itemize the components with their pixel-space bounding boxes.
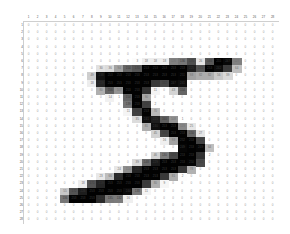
pixel-cell: 0 [241,65,250,72]
pixel-cell: 0 [196,123,205,130]
pixel-cell: 0 [205,108,214,115]
pixel-cell: 0 [24,94,33,101]
pixel-cell: 0 [123,22,132,29]
pixel-cell: 0 [241,29,250,36]
pixel-cell: 0 [24,180,33,187]
pixel-cell: 0 [123,159,132,166]
pixel-cell: 0 [105,216,114,223]
pixel-cell: 0 [24,58,33,65]
pixel-cell: 0 [51,159,60,166]
pixel-cell: 0 [214,80,223,87]
pixel-cell: 0 [33,166,42,173]
pixel-cell: 0 [69,144,78,151]
pixel-cell: 0 [178,101,187,108]
pixel-cell: 0 [60,101,69,108]
pixel-cell: 0 [51,108,60,115]
pixel-cell: 0 [178,22,187,29]
pixel-cell: 0 [223,144,232,151]
row-header: 15 [17,123,23,130]
pixel-cell: 0 [169,108,178,115]
column-header: 22 [214,14,223,20]
pixel-cell: 0 [96,94,105,101]
pixel-cell: 0 [33,216,42,223]
pixel-cell: 0 [33,130,42,137]
pixel-cell: 0 [241,58,250,65]
column-header: 14 [142,14,151,20]
pixel-cell: 0 [187,87,196,94]
pixel-cell: 0 [205,130,214,137]
pixel-cell: 0 [33,72,42,79]
pixel-cell: 0 [187,116,196,123]
pixel-cell: 0 [151,22,160,29]
pixel-cell: 0 [142,22,151,29]
pixel-cell: 0 [223,87,232,94]
pixel-cell: 0 [78,44,87,51]
pixel-cell: 0 [105,108,114,115]
pixel-cell: 0 [268,22,277,29]
pixel-cell: 0 [78,152,87,159]
pixel-cell: 0 [169,29,178,36]
pixel-cell: 0 [51,173,60,180]
pixel-cell: 0 [132,195,141,202]
pixel-cell: 0 [268,152,277,159]
pixel-cell: 0 [132,137,141,144]
pixel-cell: 0 [205,94,214,101]
pixel-cell: 0 [33,144,42,151]
pixel-cell: 0 [78,22,87,29]
pixel-cell: 0 [232,152,241,159]
pixel-cell: 0 [232,108,241,115]
pixel-cell: 0 [223,51,232,58]
pixel-cell: 0 [259,58,268,65]
pixel-cell: 0 [78,58,87,65]
pixel-cell: 0 [196,173,205,180]
pixel-cell: 0 [187,101,196,108]
pixel-cell: 0 [187,180,196,187]
pixel-cell: 0 [196,22,205,29]
pixel-cell: 0 [223,216,232,223]
pixel-cell: 0 [250,152,259,159]
pixel-cell: 0 [241,144,250,151]
pixel-cell: 0 [151,137,160,144]
pixel-cell: 0 [33,202,42,209]
pixel-cell: 0 [114,123,123,130]
pixel-cell: 0 [187,209,196,216]
pixel-cell: 0 [60,51,69,58]
row-header: 6 [17,58,23,65]
pixel-cell: 0 [69,87,78,94]
pixel-cell: 0 [214,159,223,166]
pixel-cell: 0 [123,123,132,130]
pixel-cell: 0 [33,58,42,65]
pixel-cell: 0 [232,51,241,58]
pixel-cell: 0 [268,116,277,123]
pixel-cell: 0 [250,195,259,202]
pixel-cell: 0 [60,123,69,130]
pixel-cell: 0 [250,108,259,115]
pixel-cell: 0 [60,166,69,173]
pixel-cell: 0 [105,44,114,51]
pixel-cell: 0 [241,123,250,130]
pixel-cell: 0 [259,159,268,166]
pixel-cell: 0 [169,22,178,29]
pixel-cell: 0 [96,101,105,108]
pixel-cell: 0 [33,65,42,72]
pixel-cell: 0 [223,80,232,87]
pixel-cell: 0 [196,188,205,195]
pixel-cell: 0 [42,173,51,180]
pixel-cell: 0 [42,94,51,101]
pixel-cell: 0 [142,202,151,209]
pixel-cell: 0 [96,209,105,216]
pixel-cell: 0 [259,216,268,223]
pixel-cell: 0 [232,72,241,79]
pixel-cell: 0 [241,22,250,29]
pixel-cell: 0 [24,36,33,43]
pixel-cell: 0 [151,216,160,223]
pixel-cell: 0 [259,87,268,94]
pixel-cell: 0 [87,29,96,36]
pixel-cell: 0 [105,159,114,166]
pixel-cell: 0 [241,188,250,195]
pixel-cell: 0 [78,137,87,144]
pixel-cell: 0 [60,173,69,180]
pixel-cell: 0 [69,108,78,115]
pixel-cell: 0 [114,101,123,108]
pixel-cell: 0 [187,80,196,87]
